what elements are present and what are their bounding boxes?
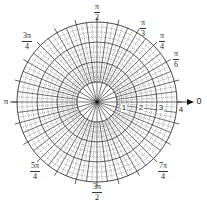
angle-tick: [137, 171, 140, 175]
radius-label: 3: [158, 104, 164, 112]
angle-label: π3: [140, 19, 146, 38]
angle-tick: [154, 42, 158, 46]
angle-label-numerator: π: [94, 3, 100, 13]
angle-label: π6: [173, 50, 179, 69]
angle-tick: [154, 159, 158, 163]
angle-label-denominator: 6: [174, 60, 178, 69]
angle-tick: [174, 123, 179, 124]
angle-tick: [15, 80, 20, 81]
angle-label-numerator: π: [159, 32, 165, 42]
angle-label-numerator: 7π: [158, 162, 168, 172]
radius-label: 4: [178, 106, 184, 114]
angle-label-denominator: 2: [95, 193, 99, 202]
angle-tick: [23, 60, 27, 63]
angle-label-numerator: 3π: [22, 32, 32, 42]
angle-label: π2: [94, 3, 100, 22]
angle-label: 3π2: [92, 183, 102, 202]
angle-tick: [166, 142, 170, 145]
pole-point: [96, 101, 99, 104]
radius-label: 1: [121, 104, 127, 112]
angle-tick: [166, 60, 170, 63]
angle-tick: [23, 142, 27, 145]
angle-label-denominator: 4: [161, 172, 165, 181]
polar-axis-label: 0: [196, 97, 201, 106]
angle-label-denominator: 4: [33, 172, 37, 181]
angle-label: π4: [159, 32, 165, 51]
angle-label: 3π4: [22, 32, 32, 51]
angle-tick: [118, 20, 119, 25]
angle-label-denominator: 3: [141, 29, 145, 38]
radius-label: 2: [138, 104, 144, 112]
angle-label-denominator: 2: [95, 13, 99, 22]
angle-tick: [37, 42, 41, 46]
angle-label-denominator: 4: [160, 42, 164, 51]
angle-tick: [75, 20, 76, 25]
arrow-right-icon: [187, 99, 194, 105]
angle-label: 5π4: [30, 162, 40, 181]
angle-label-numerator: π: [173, 50, 179, 60]
angle-tick: [174, 80, 179, 81]
angle-tick: [118, 179, 119, 184]
angle-tick: [55, 28, 58, 32]
solid-radial: [18, 105, 77, 113]
angle-label-numerator: π: [140, 19, 146, 29]
angle-tick: [15, 123, 20, 124]
angle-label-denominator: 4: [25, 42, 29, 51]
angle-label: 7π4: [158, 162, 168, 181]
angle-label-numerator: 3π: [92, 183, 102, 193]
angle-tick: [55, 171, 58, 175]
angle-label-numerator: 5π: [30, 162, 40, 172]
angle-tick: [75, 179, 76, 184]
pi-label: π: [4, 97, 9, 106]
